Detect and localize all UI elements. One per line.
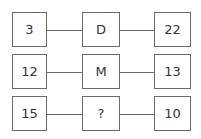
row1-right-connector bbox=[119, 30, 155, 31]
row3-right-box: 10 bbox=[154, 96, 191, 131]
row2-left-box: 12 bbox=[12, 54, 47, 89]
row3-right-connector bbox=[119, 114, 155, 115]
row3-left-value: 15 bbox=[21, 106, 38, 121]
row3-left-connector bbox=[47, 114, 83, 115]
row1-left-box: 3 bbox=[12, 12, 47, 47]
row1-right-box: 22 bbox=[154, 12, 191, 47]
row3-middle-value: ? bbox=[98, 106, 105, 121]
row1-left-value: 3 bbox=[25, 22, 33, 37]
row2-right-box: 13 bbox=[154, 54, 191, 89]
row2-right-value: 13 bbox=[164, 64, 181, 79]
row3-right-value: 10 bbox=[164, 106, 181, 121]
row3-middle-box: ? bbox=[82, 96, 120, 131]
row1-middle-box: D bbox=[82, 12, 120, 47]
row2-middle-value: M bbox=[95, 64, 106, 79]
row1-right-value: 22 bbox=[164, 22, 181, 37]
row2-left-value: 12 bbox=[21, 64, 38, 79]
row3-left-box: 15 bbox=[12, 96, 47, 131]
row2-right-connector bbox=[119, 72, 155, 73]
row2-left-connector bbox=[47, 72, 83, 73]
row2-middle-box: M bbox=[82, 54, 120, 89]
row1-left-connector bbox=[47, 30, 83, 31]
row1-middle-value: D bbox=[96, 22, 106, 37]
